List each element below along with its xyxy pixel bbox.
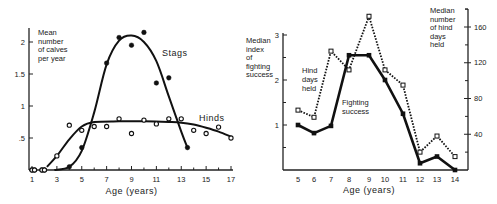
y-tick-label: 3 — [275, 31, 279, 40]
stags-data-point — [67, 165, 72, 170]
hinds-label: Hinds — [199, 113, 225, 123]
hinds-data-point — [55, 154, 59, 158]
y-axis-label: per year — [38, 54, 66, 63]
x-tick-label: 17 — [227, 175, 235, 184]
fighting-success-marker — [329, 124, 334, 129]
stags-data-point — [142, 30, 147, 35]
x-tick-label: 12 — [416, 175, 424, 184]
x-axis-label: Age (years) — [343, 185, 395, 195]
x-tick-label: 9 — [129, 175, 133, 184]
x-axis-label: Age (years) — [105, 186, 157, 196]
y-tick-label: 2 — [275, 76, 279, 85]
stags-data-point — [154, 81, 159, 86]
hinds-data-point — [167, 117, 171, 121]
hind-days-marker — [296, 108, 300, 112]
y2-tick-label: 160 — [474, 23, 487, 32]
y-tick-label: 2 — [21, 38, 25, 47]
hinds-data-point — [154, 122, 158, 126]
stags-data-point — [79, 145, 84, 150]
hinds-data-point — [105, 124, 109, 128]
x-tick-label: 11 — [152, 175, 160, 184]
fighting-success-label: success — [342, 107, 369, 116]
x-tick-label: 5 — [296, 175, 300, 184]
y-tick-label: .5 — [19, 134, 25, 143]
hinds-data-point — [179, 117, 183, 121]
stags-label: Stags — [162, 48, 188, 58]
x-tick-label: 11 — [399, 175, 407, 184]
x-tick-label: 5 — [80, 175, 84, 184]
hind-days-marker — [453, 155, 457, 159]
y2-tick-label: 40 — [474, 130, 482, 139]
fighting-success-marker — [383, 78, 388, 83]
x-tick-label: 15 — [202, 175, 210, 184]
hinds-data-point — [32, 168, 36, 172]
hinds-data-point — [129, 131, 133, 135]
stags-data-point — [129, 43, 134, 48]
fighting-success-marker — [367, 53, 372, 58]
hind-days-marker — [347, 68, 351, 72]
hind-days-marker — [312, 115, 316, 119]
stags-data-point — [185, 145, 190, 150]
hind-days-marker — [383, 68, 387, 72]
stags-data-point — [104, 61, 109, 66]
x-tick-label: 14 — [451, 175, 459, 184]
x-tick-label: 1 — [30, 175, 34, 184]
y-tick-label: 1 — [21, 102, 25, 111]
hinds-data-point — [216, 125, 220, 129]
hinds-data-point — [80, 128, 84, 132]
fighting-success-marker — [418, 161, 423, 166]
left-chart-calves-by-age: .511.521357911131517Age (years)Meannumbe… — [15, 28, 236, 196]
y-axis-label-left: success — [246, 70, 273, 79]
hind-days-marker — [401, 83, 405, 87]
x-tick-label: 10 — [381, 175, 389, 184]
y2-tick-label: 80 — [474, 94, 482, 103]
fighting-success-marker — [453, 168, 458, 173]
hinds-data-point — [142, 118, 146, 122]
hinds-data-point — [92, 124, 96, 128]
right-chart-fighting-success: 1234080120160567891011121314Age (years)M… — [246, 6, 487, 195]
y2-tick-label: 120 — [474, 58, 487, 67]
hind-days-marker — [367, 14, 371, 18]
fighting-success-marker — [435, 154, 440, 159]
x-tick-label: 6 — [312, 175, 316, 184]
fighting-success-label: Fighting — [342, 98, 369, 107]
x-tick-label: 8 — [347, 175, 351, 184]
x-tick-label: 7 — [329, 175, 333, 184]
x-tick-label: 13 — [433, 175, 441, 184]
hind-days-label: days — [302, 75, 318, 84]
hind-days-marker — [418, 150, 422, 154]
hinds-fit-curve — [47, 121, 231, 167]
hinds-data-point — [204, 131, 208, 135]
y-axis-label-right: held — [430, 40, 444, 49]
fighting-success-marker — [347, 53, 352, 58]
fighting-success-line — [298, 55, 455, 170]
y-tick-label: 1 — [275, 121, 279, 130]
hinds-data-point — [229, 136, 233, 140]
hind-days-marker — [435, 134, 439, 138]
x-tick-label: 3 — [55, 175, 59, 184]
hinds-data-point — [67, 123, 71, 127]
hind-days-label: held — [302, 84, 316, 93]
x-tick-label: 13 — [177, 175, 185, 184]
fighting-success-marker — [312, 131, 317, 136]
stags-data-point — [117, 35, 122, 40]
fighting-success-marker — [296, 123, 301, 128]
fighting-success-marker — [401, 111, 406, 116]
x-tick-label: 9 — [367, 175, 371, 184]
stags-data-point — [167, 76, 172, 81]
hinds-data-point — [117, 117, 121, 121]
hind-days-label: Hind — [302, 66, 317, 75]
hind-days-marker — [329, 49, 333, 53]
x-tick-label: 7 — [105, 175, 109, 184]
y-tick-label: 1.5 — [15, 70, 25, 79]
figure: .511.521357911131517Age (years)Meannumbe… — [0, 0, 497, 204]
hinds-data-point — [42, 168, 46, 172]
hinds-data-point — [192, 128, 196, 132]
